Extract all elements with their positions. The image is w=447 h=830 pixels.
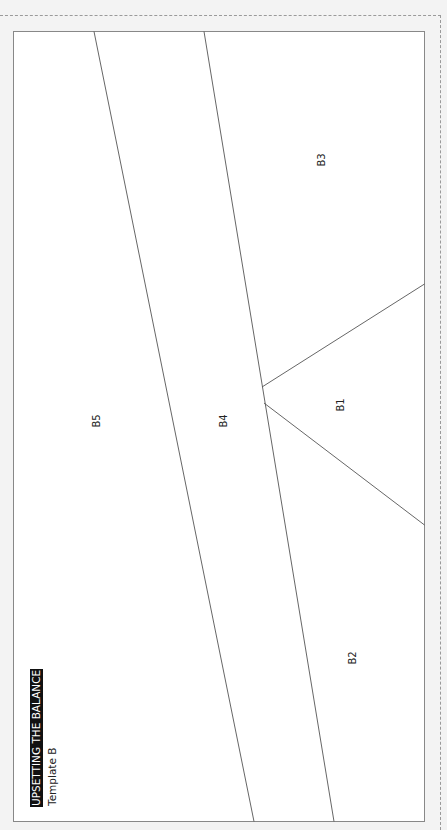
region-label-b5: B5: [92, 414, 102, 427]
region-label-b3: B3: [317, 153, 327, 166]
template-title: UPSETTING THE BALANCE: [30, 669, 43, 807]
region-label-b2: B2: [348, 651, 358, 664]
region-label-b4: B4: [219, 414, 229, 427]
title-block: UPSETTING THE BALANCE Template B: [30, 669, 59, 807]
template-subtitle: Template B: [45, 669, 59, 807]
region-label-b1: B1: [336, 398, 346, 411]
